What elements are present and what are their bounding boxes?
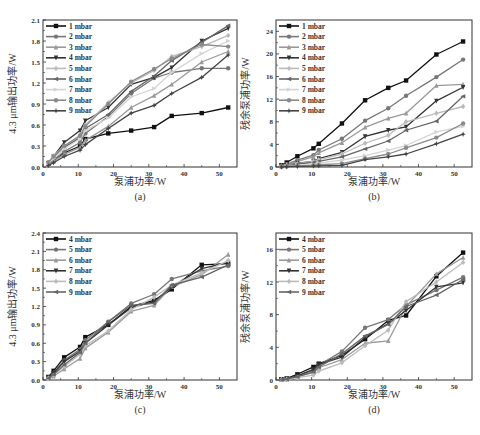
legend-item: 4 mbar — [46, 235, 93, 244]
y-tick-label: 0.9 — [31, 321, 40, 329]
y-tick-label: 1.2 — [31, 80, 40, 88]
legend-item: 7 mbar — [279, 85, 326, 94]
x-tick-label: 10 — [308, 383, 316, 391]
data-point — [362, 147, 367, 151]
data-point — [404, 313, 408, 317]
data-point — [461, 255, 465, 260]
x-tick-label: 40 — [415, 170, 423, 178]
data-point — [62, 144, 66, 148]
y-tick-label: 1.8 — [31, 38, 40, 46]
legend-label: 4 mbar — [69, 53, 93, 62]
data-point — [404, 94, 408, 98]
legend-item: 6 mbar — [46, 75, 93, 84]
y-tick-label: 0 — [270, 164, 274, 172]
legend-item: 8 mbar — [279, 96, 326, 105]
chart-panel-b: 0102030405004812162024泵浦功率/W残余泵浦功率/W(b)1… — [239, 20, 472, 203]
legend: 4 mbar5 mbar6 mbar7 mbar8 mbar9 mbar — [279, 235, 326, 297]
legend-item: 1 mbar — [279, 22, 326, 31]
y-tick-label: 4 — [270, 141, 274, 149]
legend-item: 9 mbar — [46, 106, 93, 115]
legend-item: 1 mbar — [46, 22, 93, 31]
data-point — [106, 102, 110, 106]
legend-marker — [287, 279, 291, 284]
data-point — [386, 317, 390, 321]
legend-marker — [286, 108, 291, 113]
data-point — [152, 125, 156, 129]
data-point — [226, 66, 230, 70]
legend-item: 4 mbar — [279, 235, 326, 244]
legend-marker — [287, 66, 291, 71]
panel-label: (c) — [134, 404, 145, 416]
data-point — [340, 121, 344, 125]
data-point — [434, 52, 438, 56]
data-point — [295, 154, 299, 158]
data-point — [226, 39, 231, 43]
legend-label: 6 mbar — [69, 256, 93, 265]
x-tick-label: 0 — [41, 170, 45, 178]
legend-item: 7 mbar — [46, 85, 93, 94]
legend-label: 9 mbar — [69, 106, 93, 115]
legend-label: 2 mbar — [69, 32, 93, 41]
series-line — [281, 283, 463, 380]
legend-marker — [53, 290, 58, 294]
data-point — [363, 98, 367, 102]
data-point — [226, 105, 230, 109]
legend: 1 mbar2 mbar3 mbar4 mbar5 mbar6 mbar7 mb… — [46, 22, 93, 116]
legend-marker — [287, 247, 291, 251]
y-tick-label: 20 — [266, 50, 274, 58]
data-point — [170, 56, 174, 60]
legend-marker — [53, 108, 58, 113]
legend-marker — [54, 24, 58, 28]
data-point — [434, 135, 438, 139]
x-tick-label: 0 — [274, 170, 278, 178]
y-tick-label: 16 — [266, 73, 274, 81]
data-point — [461, 104, 465, 109]
y-tick-label: 0.6 — [31, 122, 40, 130]
data-point — [226, 33, 230, 38]
legend-label: 9 mbar — [302, 106, 326, 115]
y-tick-label: 0.0 — [31, 377, 40, 385]
legend-marker — [287, 98, 291, 102]
x-tick-label: 40 — [181, 170, 189, 178]
chart-panel-d: 010203040500481216泵浦功率/W残余泵浦功率/W(d)4 mba… — [239, 233, 472, 416]
data-point — [460, 132, 465, 137]
legend-label: 4 mbar — [69, 235, 93, 244]
data-point — [404, 78, 408, 82]
x-tick-label: 40 — [181, 383, 189, 391]
legend-item: 7 mbar — [46, 266, 93, 275]
data-point — [200, 42, 204, 46]
legend-label: 6 mbar — [69, 75, 93, 84]
legend-item: 4 mbar — [46, 53, 93, 62]
data-point — [461, 121, 465, 125]
legend-marker — [287, 24, 291, 28]
x-tick-label: 0 — [41, 383, 45, 391]
x-axis-title: 泵浦功率/W — [348, 175, 401, 187]
y-tick-label: 0 — [270, 377, 274, 385]
data-point — [200, 66, 204, 70]
data-point — [78, 133, 82, 137]
legend-item: 9 mbar — [279, 106, 326, 115]
legend-marker — [286, 290, 291, 294]
legend-label: 1 mbar — [69, 22, 93, 31]
legend-label: 8 mbar — [302, 277, 326, 286]
panel-label: (a) — [134, 191, 145, 203]
legend-label: 5 mbar — [69, 64, 93, 73]
data-point — [170, 82, 174, 87]
y-tick-label: 1.8 — [31, 266, 40, 274]
legend-item: 9 mbar — [46, 288, 93, 297]
y-tick-label: 0.9 — [31, 101, 40, 109]
legend-label: 7 mbar — [69, 85, 93, 94]
legend-label: 9 mbar — [69, 288, 93, 297]
y-axis-title: 4.3 μm输出功率/W — [6, 53, 18, 134]
legend-label: 8 mbar — [302, 96, 326, 105]
data-point — [386, 139, 391, 143]
figure: 010203040500.00.30.60.91.21.51.82.1泵浦功率/… — [0, 0, 480, 435]
legend-marker — [54, 34, 58, 38]
chart-panel-a: 010203040500.00.30.60.91.21.51.82.1泵浦功率/… — [6, 17, 237, 204]
data-point — [170, 277, 174, 281]
x-axis-title: 泵浦功率/W — [348, 388, 401, 400]
chart-panel-c: 010203040500.00.30.60.91.21.51.82.12.4泵浦… — [6, 230, 237, 417]
legend-item: 5 mbar — [279, 64, 326, 73]
y-tick-label: 8 — [270, 118, 274, 126]
data-point — [434, 119, 439, 123]
